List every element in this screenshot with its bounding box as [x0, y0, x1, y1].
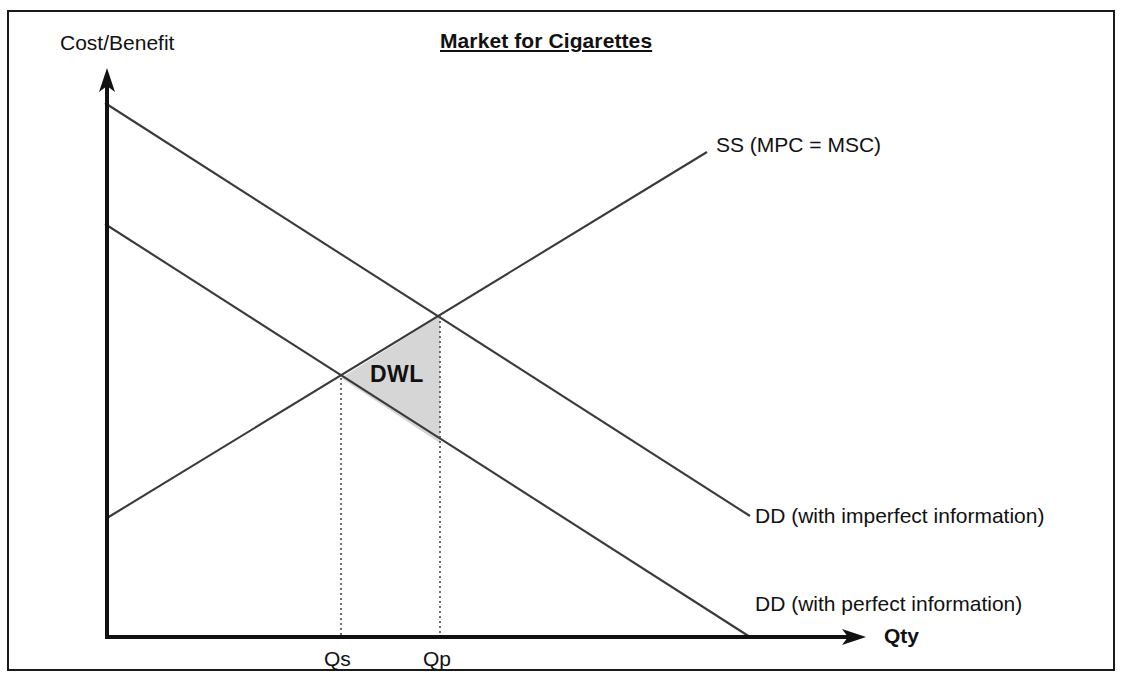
- demand-curve-imperfect-information: [105, 103, 750, 516]
- y-axis-title: Cost/Benefit: [60, 32, 174, 53]
- chart-title: Market for Cigarettes: [440, 30, 652, 51]
- dwl-region-label: DWL: [370, 363, 424, 386]
- demand-curve-perfect-information: [105, 224, 750, 637]
- supply-curve-ss: [107, 152, 707, 518]
- supply-curve-label: SS (MPC = MSC): [716, 134, 881, 155]
- market-diagram-canvas: [0, 0, 1124, 682]
- x-axis-title: Qty: [884, 625, 919, 646]
- x-tick-label-qs: Qs: [324, 648, 351, 669]
- demand-imperfect-information-label: DD (with imperfect information): [755, 505, 1044, 526]
- diagram-page: Cost/Benefit Market for Cigarettes SS (M…: [0, 0, 1124, 682]
- demand-perfect-information-label: DD (with perfect information): [755, 593, 1022, 614]
- x-tick-label-qp: Qp: [423, 648, 451, 669]
